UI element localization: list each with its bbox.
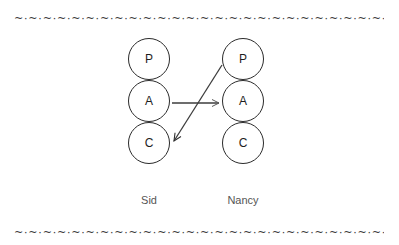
ego-state-label: C [239, 136, 248, 150]
decorative-wave-rule-bottom: ~·~·~·~·~·~·~·~·~·~·~·~·~·~·~·~·~·~·~·~·… [14, 226, 384, 240]
ego-state-label: A [239, 94, 247, 108]
ego-state-label: C [145, 136, 154, 150]
ego-state-label: P [239, 52, 247, 66]
ego-state-label: A [145, 94, 153, 108]
transaction-arrows-canvas [0, 0, 399, 245]
ego-state-nancy-child[interactable]: C [222, 122, 264, 164]
ego-state-sid-parent[interactable]: P [128, 38, 170, 80]
ego-state-nancy-adult[interactable]: A [222, 80, 264, 122]
person-label-sid: Sid [104, 194, 194, 206]
person-label-nancy: Nancy [198, 194, 288, 206]
ego-state-sid-child[interactable]: C [128, 122, 170, 164]
ego-state-sid-adult[interactable]: A [128, 80, 170, 122]
ego-state-nancy-parent[interactable]: P [222, 38, 264, 80]
ego-state-label: P [145, 52, 153, 66]
diagram-page: ~·~·~·~·~·~·~·~·~·~·~·~·~·~·~·~·~·~·~·~·… [0, 0, 399, 245]
